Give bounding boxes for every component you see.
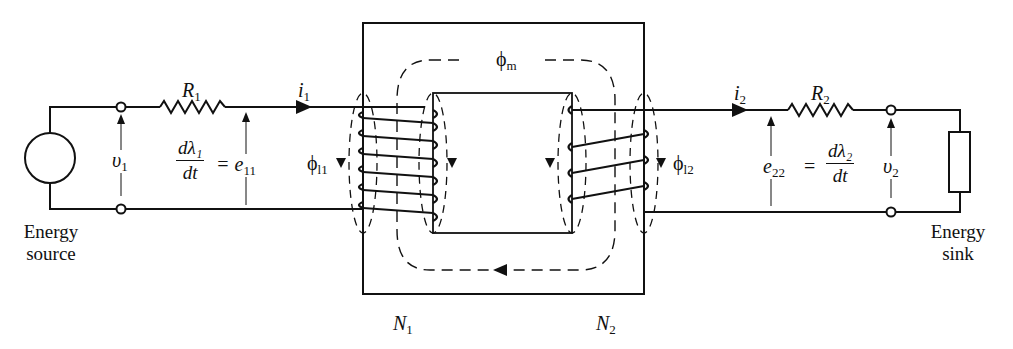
energy-sink-symbol (949, 132, 970, 192)
label-R2: R2 (811, 83, 830, 106)
terminal-v2-bottom (887, 208, 896, 217)
label-e22: e22 (763, 156, 785, 179)
label-phi-l1: ϕl1 (307, 153, 328, 176)
energy-source-symbol (25, 133, 75, 183)
label-v2: υ2 (883, 156, 899, 179)
flux-arrow-core-right (545, 158, 555, 168)
mutual-flux-path (397, 60, 615, 270)
label-i1: i1 (298, 80, 310, 103)
flux-arrow-bottom (493, 264, 507, 276)
label-N1: N1 (393, 313, 413, 336)
flux-arrow-core-left (447, 158, 457, 168)
label-phi-m: ϕm (492, 49, 521, 72)
label-v1: υ1 (112, 150, 128, 173)
label-phi-l2: ϕl2 (673, 153, 694, 176)
label-dlambda1-dt: dλ₁dt (176, 137, 204, 184)
terminal-v1-bottom (117, 205, 126, 214)
flux-arrow-l1 (336, 158, 346, 168)
label-N2: N2 (596, 313, 616, 336)
secondary-winding (569, 106, 649, 203)
label-R1: R1 (182, 80, 201, 103)
label-dlambda2-dt: dλ₂dt (826, 140, 854, 187)
terminal-v2-top (887, 106, 896, 115)
caption-energy-sink: Energysink (918, 221, 998, 265)
caption-energy-source: Energysource (14, 221, 88, 265)
primary-winding (359, 110, 437, 221)
terminal-v1-top (117, 103, 126, 112)
label-e22-equals: = (804, 156, 815, 176)
label-i2: i2 (734, 83, 746, 106)
label-e11: = e11 (216, 154, 256, 177)
